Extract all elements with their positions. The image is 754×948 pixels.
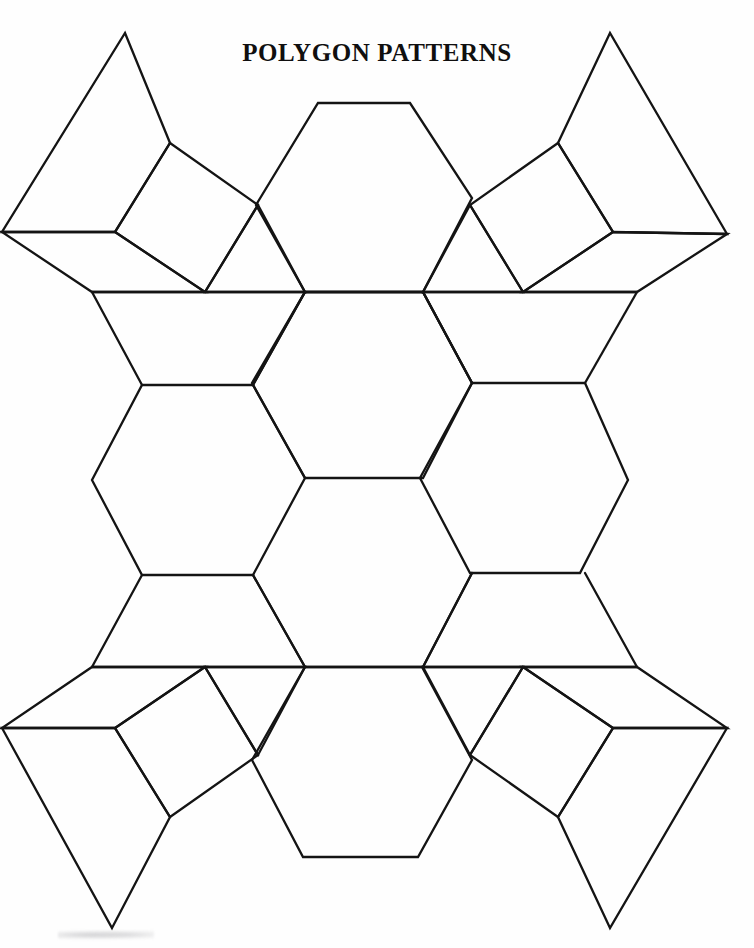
edge-lower-right-diag-a (585, 573, 637, 667)
square-top-right (470, 143, 613, 292)
edge-lower-left-diag-a (92, 575, 142, 667)
triangle-bottom-right-inner (423, 667, 523, 755)
hexagon-middle-right (420, 383, 628, 573)
triangle-bottom-left-inner (205, 667, 305, 755)
kite-bottom-left-outer (2, 728, 170, 928)
triangle-top-right-inner (423, 205, 523, 292)
square-top-left (115, 143, 258, 292)
edge-mid-right-up (423, 292, 472, 383)
quad-upper-right-wedge (523, 232, 727, 292)
quad-lower-right-wedge (523, 667, 727, 728)
edge-mid-left-down (253, 575, 305, 667)
polygon-shape-layer (2, 33, 727, 928)
kite-top-right-outer (558, 33, 727, 234)
kite-bottom-right-outer (558, 728, 727, 928)
hexagon-middle-left (92, 385, 305, 575)
polygon-net-figure (0, 0, 754, 948)
quad-lower-left-wedge (2, 667, 205, 728)
kite-top-left-outer (2, 33, 170, 232)
edge-mid-right-down (423, 573, 472, 667)
edge-upper-right-diag-a (585, 292, 637, 383)
quad-upper-left-wedge (2, 232, 205, 292)
triangle-top-left-inner (205, 205, 305, 292)
worksheet-page: POLYGON PATTERNS (0, 0, 754, 948)
edge-upper-left-diag-a (92, 292, 142, 385)
square-bottom-left (115, 667, 258, 817)
edge-mid-left-up (253, 292, 305, 385)
square-bottom-right (470, 667, 613, 817)
